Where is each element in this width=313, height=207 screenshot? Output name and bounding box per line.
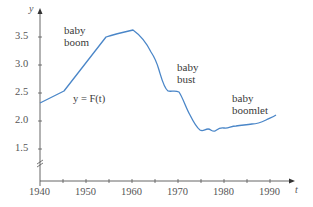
annotation-line: boom bbox=[64, 36, 89, 48]
x-axis-arrow-icon bbox=[289, 179, 295, 184]
y-axis-arrow-icon bbox=[38, 8, 43, 14]
x-tick-label: 1950 bbox=[75, 186, 96, 197]
annotation-baby-boomlet: baby boomlet bbox=[232, 92, 268, 116]
annotation-baby-boom: baby boom bbox=[64, 24, 89, 48]
y-tick-label: 3.5 bbox=[15, 30, 28, 41]
y-tick-label: 3.0 bbox=[15, 58, 28, 69]
y-tick-label: 1.5 bbox=[15, 142, 28, 153]
y-axis-label: y bbox=[29, 3, 33, 14]
annotation-line: bust bbox=[177, 73, 198, 85]
annotation-baby-bust: baby bust bbox=[177, 61, 198, 85]
annotation-line: baby bbox=[64, 24, 89, 36]
y-tick-label: 2.0 bbox=[15, 114, 28, 125]
annotation-line: boomlet bbox=[232, 104, 268, 116]
annotation-line: baby bbox=[177, 61, 198, 73]
curve-label: y = F(t) bbox=[73, 93, 105, 105]
x-tick-label: 1990 bbox=[259, 186, 280, 197]
x-axis-label: t bbox=[295, 184, 298, 195]
x-tick-label: 1940 bbox=[29, 186, 50, 197]
x-tick-label: 1980 bbox=[213, 186, 234, 197]
annotation-line: baby bbox=[232, 92, 268, 104]
x-tick-label: 1960 bbox=[121, 186, 142, 197]
x-tick-label: 1970 bbox=[167, 186, 188, 197]
y-tick-label: 2.5 bbox=[15, 86, 28, 97]
